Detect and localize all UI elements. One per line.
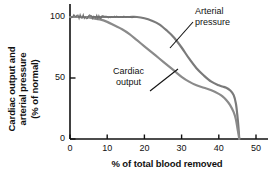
annotation-arterial-pressure: Arterial pressure [195,6,230,27]
x-axis-label: % of total blood removed [60,158,274,169]
x-tick-label: 30 [173,143,191,153]
data-series [70,15,239,139]
x-tick-label: 40 [210,143,228,153]
chart-figure: Cardiac output and arterial pressure (% … [0,0,274,178]
y-tick-label: 100 [42,11,65,21]
y-tick-label: 0 [42,133,65,143]
leader-line-cardiac-output [150,69,178,91]
series-line [70,17,239,139]
annotation-arterial-pressure-line-1: Arterial [195,6,230,17]
annotation-cardiac-output-line-1: Cardiac [113,66,144,77]
x-tick-label: 0 [61,143,79,153]
x-tick-label: 50 [247,143,265,153]
leader-line-arterial-pressure [170,22,193,48]
series-line [70,17,239,139]
annotation-cardiac-output-line-2: output [113,77,144,88]
annotation-cardiac-output: Cardiac output [113,66,144,87]
y-tick-label: 50 [42,72,65,82]
x-tick-label: 20 [135,143,153,153]
annotation-arterial-pressure-line-2: pressure [195,17,230,28]
x-tick-label: 10 [98,143,116,153]
